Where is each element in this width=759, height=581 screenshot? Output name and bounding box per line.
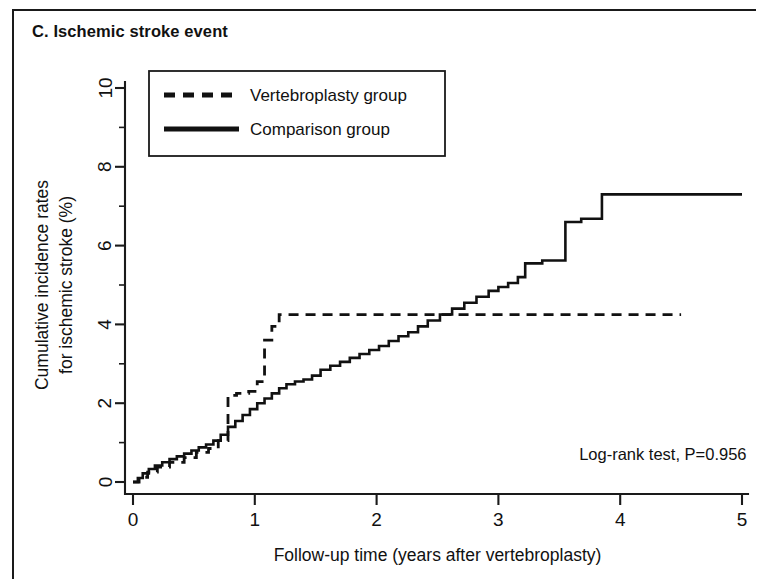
x-tick-label: 5 bbox=[737, 509, 748, 530]
chart-canvas: 0246810012345Follow-up time (years after… bbox=[0, 0, 759, 581]
chart-legend[interactable]: Vertebroplasty groupComparison group bbox=[149, 71, 445, 156]
y-tick-label: 8 bbox=[95, 162, 116, 173]
x-tick-label: 4 bbox=[615, 509, 626, 530]
y-tick-label: 0 bbox=[95, 477, 116, 488]
logrank-annotation: Log-rank test, P=0.956 bbox=[579, 445, 746, 463]
svg-text:Cumulative incidence rates: Cumulative incidence rates bbox=[32, 180, 52, 390]
y-tick-label: 2 bbox=[95, 398, 116, 409]
y-tick-label: 6 bbox=[95, 240, 116, 251]
y-axis-title: Cumulative incidence ratesfor ischemic s… bbox=[32, 180, 76, 390]
x-axis-title: Follow-up time (years after vertebroplas… bbox=[274, 545, 602, 565]
y-tick-label: 4 bbox=[95, 319, 116, 330]
series-line-solid bbox=[133, 194, 742, 482]
y-tick-label: 10 bbox=[95, 77, 116, 98]
x-tick-label: 3 bbox=[493, 509, 504, 530]
x-tick-label: 2 bbox=[371, 509, 382, 530]
x-tick-label: 0 bbox=[128, 509, 139, 530]
chart-series bbox=[133, 194, 742, 482]
legend-label[interactable]: Comparison group bbox=[250, 120, 390, 139]
legend-box bbox=[149, 71, 445, 156]
legend-label[interactable]: Vertebroplasty group bbox=[250, 86, 407, 105]
svg-text:for ischemic stroke (%): for ischemic stroke (%) bbox=[56, 196, 76, 374]
x-tick-label: 1 bbox=[250, 509, 261, 530]
figure-panel: C. Ischemic stroke event 0246810012345Fo… bbox=[0, 0, 759, 581]
